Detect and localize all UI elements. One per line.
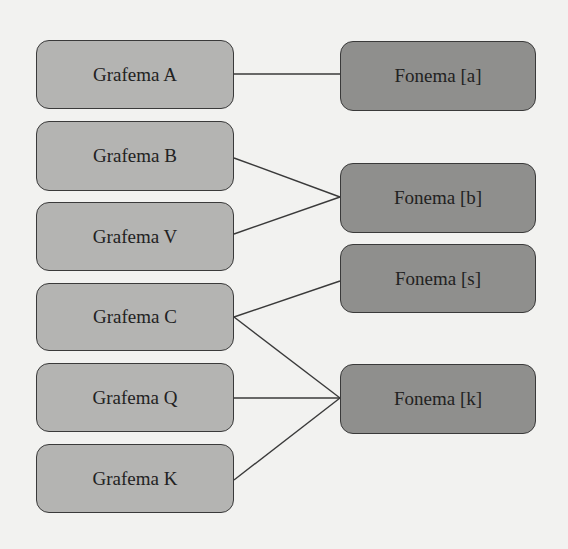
grapheme-b-label: Grafema B: [93, 145, 177, 167]
grapheme-v-label: Grafema V: [93, 226, 178, 248]
grapheme-q-box: Grafema Q: [36, 363, 234, 432]
phoneme-s-box: Fonema [s]: [340, 244, 536, 313]
connection-B-b: [234, 158, 340, 197]
grapheme-q-label: Grafema Q: [93, 387, 178, 409]
phoneme-b-label: Fonema [b]: [394, 187, 482, 209]
connection-K-k: [234, 398, 340, 480]
grapheme-k-box: Grafema K: [36, 444, 234, 513]
connection-C-k: [234, 317, 340, 398]
grapheme-b-box: Grafema B: [36, 121, 234, 191]
grapheme-phoneme-diagram: Grafema A Grafema B Grafema V Grafema C …: [0, 0, 568, 549]
grapheme-a-box: Grafema A: [36, 40, 234, 109]
phoneme-k-label: Fonema [k]: [394, 388, 482, 410]
grapheme-v-box: Grafema V: [36, 202, 234, 271]
phoneme-k-box: Fonema [k]: [340, 364, 536, 434]
grapheme-a-label: Grafema A: [93, 64, 177, 86]
phoneme-b-box: Fonema [b]: [340, 163, 536, 233]
connection-V-b: [234, 197, 340, 234]
phoneme-a-box: Fonema [a]: [340, 41, 536, 111]
phoneme-a-label: Fonema [a]: [394, 65, 481, 87]
grapheme-k-label: Grafema K: [93, 468, 178, 490]
connection-C-s: [234, 281, 340, 317]
grapheme-c-box: Grafema C: [36, 283, 234, 351]
phoneme-s-label: Fonema [s]: [395, 268, 481, 290]
grapheme-c-label: Grafema C: [93, 306, 177, 328]
